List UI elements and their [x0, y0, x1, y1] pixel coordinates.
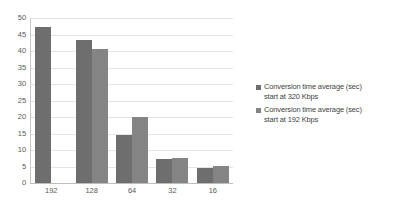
y-tick-label: 20: [0, 113, 26, 121]
y-tick-label: 25: [0, 97, 26, 105]
gridline-0: [31, 183, 233, 184]
y-tick-label: 15: [0, 130, 26, 138]
y-tick-label: 30: [0, 80, 26, 88]
bar-chart-figure: 05101520253035404550 192128643216 Conver…: [0, 0, 408, 213]
y-tick-label: 0: [0, 179, 26, 187]
y-axis: 05101520253035404550: [0, 18, 26, 183]
bar-group: [112, 18, 152, 183]
y-tick-label: 35: [0, 64, 26, 72]
bars-layer: [31, 18, 233, 183]
legend-swatch-icon: [256, 85, 261, 90]
bar-series-1-32[interactable]: [172, 158, 188, 183]
chart-legend: Conversion time average (sec) start at 3…: [256, 82, 404, 128]
bar-series-1-128[interactable]: [92, 49, 108, 183]
legend-entry-1[interactable]: Conversion time average (sec) start at 1…: [256, 105, 404, 125]
y-tick-label: 50: [0, 14, 26, 22]
bar-series-1-64[interactable]: [132, 117, 148, 183]
bar-group: [193, 18, 233, 183]
bar-series-0-192[interactable]: [35, 27, 51, 183]
legend-label: Conversion time average (sec) start at 3…: [264, 82, 362, 102]
bar-group: [71, 18, 111, 183]
x-tick-label: 128: [71, 187, 111, 201]
x-tick-label: 64: [112, 187, 152, 201]
bar-series-0-16[interactable]: [197, 168, 213, 183]
x-tick-label: 32: [152, 187, 192, 201]
x-axis: 192128643216: [31, 187, 233, 201]
y-tick-label: 40: [0, 47, 26, 55]
y-tick-label: 5: [0, 163, 26, 171]
x-tick-label: 16: [193, 187, 233, 201]
bar-series-0-128[interactable]: [76, 40, 92, 183]
x-tick-label: 192: [31, 187, 71, 201]
legend-label: Conversion time average (sec) start at 1…: [264, 105, 362, 125]
legend-swatch-icon: [256, 108, 261, 113]
legend-entry-0[interactable]: Conversion time average (sec) start at 3…: [256, 82, 404, 102]
bar-group: [152, 18, 192, 183]
y-tick-label: 45: [0, 31, 26, 39]
bar-series-1-16[interactable]: [213, 166, 229, 183]
bar-series-0-64[interactable]: [116, 135, 132, 183]
bar-series-0-32[interactable]: [156, 159, 172, 183]
y-tick-label: 10: [0, 146, 26, 154]
bar-group: [31, 18, 71, 183]
